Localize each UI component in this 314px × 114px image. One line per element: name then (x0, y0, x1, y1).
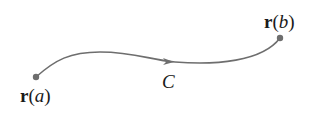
end-close-paren: ) (288, 11, 294, 32)
start-close-paren: ) (44, 85, 50, 106)
curve-diagram: r(a) r(b) C (0, 0, 314, 114)
start-point (33, 74, 39, 80)
start-label: r(a) (20, 86, 51, 105)
start-param: a (35, 85, 45, 106)
end-point (277, 35, 283, 41)
curve-label: C (162, 72, 175, 91)
end-label: r(b) (264, 12, 295, 31)
curve-c (36, 38, 280, 77)
end-param: b (279, 11, 289, 32)
